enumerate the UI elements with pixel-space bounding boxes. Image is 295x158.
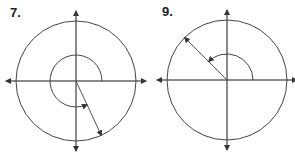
angle-diagrams <box>0 0 295 158</box>
rotation-arc <box>209 54 253 80</box>
diagram-7 <box>6 11 146 151</box>
diagram-9 <box>157 10 295 150</box>
terminal-ray <box>185 38 227 80</box>
terminal-ray <box>76 81 101 135</box>
